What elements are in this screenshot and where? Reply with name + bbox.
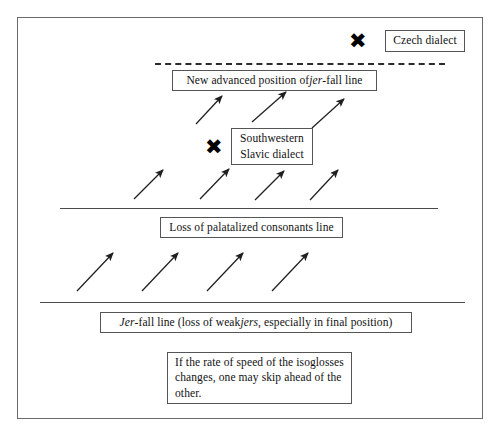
czech-dialect-label-box: Czech dialect [385,30,465,52]
czech-dialect-marker-icon: ✖ [349,31,367,52]
isogloss-speed-note-box: If the rate of speed of the isoglosses c… [167,352,352,404]
jer-fall-text-end: , especially in final position) [258,315,392,330]
loss-of-palatalized-consonants-label-box: Loss of palatalized consonants line [160,217,343,238]
southwestern-slavic-dialect-label-box: Southwestern Slavic dialect [231,128,313,165]
jer-fall-line-label-box: Jer-fall line (loss of weak jers, especi… [100,312,412,333]
southwestern-slavic-dialect-marker-icon: ✖ [205,137,223,158]
new-advanced-text-before: New advanced position of [186,73,309,88]
jer-fall-italic-2: jers [240,315,258,330]
new-advanced-text-italic: jer [309,73,322,88]
jer-fall-text-mid: -fall line (loss of weak [135,315,241,330]
isogloss-line-loss-of-palatalized-consonants [60,208,438,209]
isogloss-line-jer-fall [40,302,465,303]
new-advanced-jer-fall-line-label-box: New advanced position of jer-fall line [172,70,377,91]
new-advanced-text-after: -fall line [322,73,362,88]
jer-fall-italic-1: Jer [120,315,135,330]
isogloss-line-new-advanced-jer-fall [155,63,445,65]
diagram-page: ✖ ✖ Czech dialect New advanced position … [0,0,499,436]
